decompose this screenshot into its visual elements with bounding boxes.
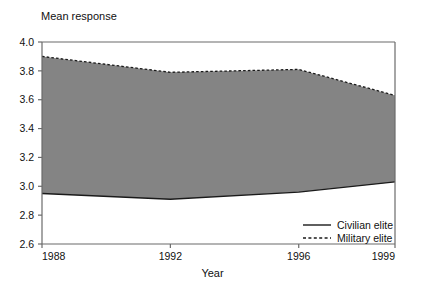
y-tick-label: 3.6 — [19, 93, 34, 105]
y-axis-ticks: 2.62.83.03.23.43.63.84.0 — [19, 36, 42, 250]
x-axis-ticks: 1988199219961999 — [42, 244, 395, 262]
y-tick-label: 3.2 — [19, 151, 34, 163]
y-tick-label: 2.6 — [19, 238, 34, 250]
x-tick-label: 1996 — [287, 250, 311, 262]
y-tick-label: 2.8 — [19, 209, 34, 221]
y-tick-label: 3.8 — [19, 65, 34, 77]
chart-plot-area: 2.62.83.03.23.43.63.84.0 198819921996199… — [0, 0, 425, 297]
y-tick-label: 4.0 — [19, 36, 34, 48]
y-tick-label: 3.4 — [19, 122, 34, 134]
y-tick-label: 3.0 — [19, 180, 34, 192]
x-axis-title: Year — [0, 267, 425, 279]
x-tick-label: 1999 — [372, 250, 396, 262]
legend-label-military-elite: Military elite — [337, 232, 393, 244]
chart-figure: Mean response 2.62.83.03.23.43.63.84.0 1… — [0, 0, 425, 297]
x-tick-label: 1988 — [42, 250, 66, 262]
x-tick-label: 1992 — [159, 250, 183, 262]
legend-label-civilian-elite: Civilian elite — [337, 219, 393, 231]
